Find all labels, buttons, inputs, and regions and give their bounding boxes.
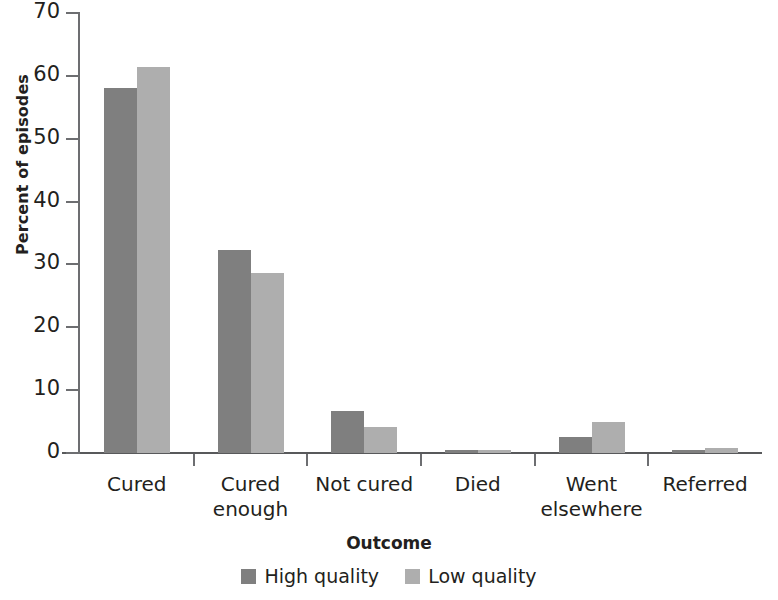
legend-label: Low quality [428, 567, 536, 586]
plot-area [0, 0, 778, 453]
x-tick-mark [420, 454, 422, 466]
x-category-label-line: Referred [648, 472, 762, 497]
bar [218, 250, 251, 453]
bar [137, 67, 170, 453]
x-category-label-line: Cured [194, 472, 308, 497]
bar [251, 273, 284, 453]
bar [592, 422, 625, 453]
legend-label: High quality [264, 567, 379, 586]
x-category-label: Not cured [307, 472, 421, 497]
x-tick-mark [647, 454, 649, 466]
x-category-label-line: Died [421, 472, 535, 497]
bar [445, 450, 478, 453]
bar-chart: Percent of episodes 010203040506070 Cure… [0, 0, 778, 600]
bar [559, 437, 592, 453]
x-category-label: Wentelsewhere [535, 472, 649, 522]
x-category-label: Died [421, 472, 535, 497]
legend-swatch [241, 569, 256, 584]
x-category-label: Curedenough [194, 472, 308, 522]
legend-swatch [405, 569, 420, 584]
x-category-label-line: Not cured [307, 472, 421, 497]
legend-item: Low quality [405, 567, 536, 586]
bar [104, 88, 137, 453]
x-category-label-line: elsewhere [535, 497, 649, 522]
x-category-label: Referred [648, 472, 762, 497]
x-tick-mark [534, 454, 536, 466]
bar [478, 450, 511, 453]
bar [705, 448, 738, 453]
bar [672, 450, 705, 453]
x-category-label: Cured [80, 472, 194, 497]
bar [364, 427, 397, 453]
x-axis-title: Outcome [0, 533, 778, 553]
bar [331, 411, 364, 453]
x-category-label-line: Went [535, 472, 649, 497]
legend-item: High quality [241, 567, 379, 586]
x-category-label-line: enough [194, 497, 308, 522]
x-category-label-line: Cured [80, 472, 194, 497]
x-tick-mark [193, 454, 195, 466]
chart-legend: High qualityLow quality [0, 567, 778, 586]
x-tick-mark [306, 454, 308, 466]
